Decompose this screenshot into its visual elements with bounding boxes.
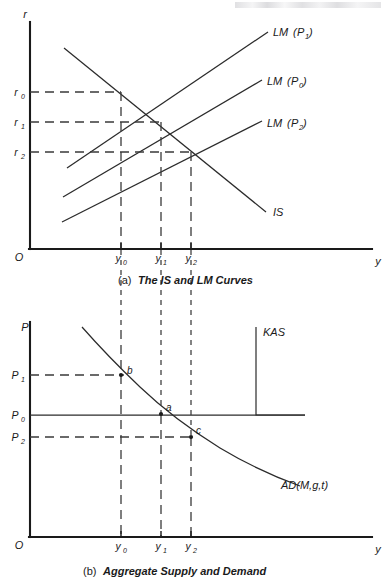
panel-a-xtick-y0-sub: 0 bbox=[123, 259, 127, 266]
curve-label-lm-p2: LM ( P 2 ) bbox=[267, 117, 307, 132]
panel-a-y-tick-labels: r 0 r 1 r 2 bbox=[14, 86, 25, 160]
panel-b-caption-text: Aggregate Supply and Demand bbox=[102, 565, 266, 577]
panel-b-ytick-p1: P bbox=[11, 369, 18, 381]
curve-label-lm-p2-arg: P bbox=[291, 117, 299, 129]
panel-a-ytick-r2-sub: 2 bbox=[20, 153, 25, 160]
panel-b-point-labels: b a c bbox=[127, 365, 201, 436]
panel-a-ytick-r1-sub: 1 bbox=[21, 123, 25, 130]
panel-b-xtick-y2: y bbox=[184, 540, 191, 552]
panel-b-origin-label: O bbox=[15, 539, 24, 551]
panel-b-ytick-p2-sub: 2 bbox=[20, 438, 25, 445]
curve-label-lm-p0-name: LM bbox=[267, 75, 283, 87]
panel-a-xtick-y2: y bbox=[184, 252, 191, 264]
curve-label-ad: AD(M,g,t) bbox=[280, 479, 328, 491]
panel-b-y-axis-label: P bbox=[21, 321, 29, 333]
panel-b-xtick-y1-sub: 1 bbox=[163, 547, 167, 554]
point-label-b: b bbox=[127, 365, 133, 376]
panel-b-caption: (b) Aggregate Supply and Demand bbox=[83, 565, 266, 577]
panel-a-caption-prefix: (a) bbox=[118, 274, 131, 286]
panel-b-x-tick-labels: y 0 y 1 y 2 bbox=[114, 540, 197, 554]
panel-a-x-axis-label: y bbox=[374, 255, 382, 267]
economics-figure: r y O r 0 r 1 r 2 y 0 y 1 y 2 bbox=[0, 0, 389, 585]
panel-b-ytick-p0: P bbox=[11, 409, 18, 421]
curve-label-lm-p2-name: LM bbox=[267, 117, 283, 129]
panel-a-curve-labels: LM ( P 1 ) LM ( P 0 ) LM ( bbox=[267, 26, 313, 218]
curve-label-is: IS bbox=[273, 206, 284, 218]
panel-a-origin-label: O bbox=[15, 251, 24, 263]
panel-a-xtick-y1: y bbox=[154, 252, 161, 264]
panel-a-ytick-r1: r bbox=[14, 116, 18, 128]
curve-label-lm-p1-name: LM bbox=[273, 26, 289, 38]
curve-label-lm-p0: LM ( P 0 ) bbox=[267, 75, 307, 90]
point-label-c: c bbox=[196, 425, 201, 436]
panel-b-xtick-y1: y bbox=[154, 540, 161, 552]
curve-label-lm-p0-arg: P bbox=[291, 75, 299, 87]
panel-a-xtick-y2-sub: 2 bbox=[192, 259, 197, 266]
curve-label-kas: KAS bbox=[263, 326, 286, 338]
panel-a-group: r y O r 0 r 1 r 2 y 0 y 1 y 2 bbox=[14, 8, 382, 330]
panel-a-xtick-y1-sub: 1 bbox=[163, 259, 167, 266]
figure-root: r y O r 0 r 1 r 2 y 0 y 1 y 2 bbox=[0, 0, 389, 585]
curve-lm-p2 bbox=[62, 121, 262, 222]
panel-b-x-axis-label: y bbox=[374, 543, 382, 555]
panel-b-ytick-p1-sub: 1 bbox=[21, 376, 25, 383]
panel-a-ytick-r0: r bbox=[14, 86, 18, 98]
panel-a-xtick-y0: y bbox=[114, 252, 121, 264]
panel-a-x-tick-labels: y 0 y 1 y 2 bbox=[114, 252, 197, 266]
point-marker-b bbox=[119, 373, 123, 377]
panel-a-caption: (a) The IS and LM Curves bbox=[118, 274, 253, 286]
curve-kas bbox=[256, 327, 305, 415]
point-marker-a bbox=[159, 412, 163, 416]
panel-a-caption-text: The IS and LM Curves bbox=[138, 274, 253, 286]
panel-b-group: b a c P y O P 1 P 0 P 2 y 0 bbox=[11, 321, 382, 577]
panel-b-y-tick-labels: P 1 P 0 P 2 bbox=[11, 369, 25, 445]
panel-a-ytick-r2: r bbox=[14, 146, 18, 158]
panel-b-xtick-y2-sub: 2 bbox=[192, 547, 197, 554]
panel-b-point-markers bbox=[119, 373, 193, 439]
panel-a-y-axis-label: r bbox=[23, 8, 28, 20]
panel-b-ytick-p0-sub: 0 bbox=[21, 416, 25, 423]
curve-is bbox=[64, 48, 266, 212]
curve-lm-p1 bbox=[67, 32, 268, 168]
point-label-a: a bbox=[166, 402, 172, 413]
panel-b-xtick-y0-sub: 0 bbox=[123, 547, 127, 554]
panel-b-vertical-guides bbox=[121, 330, 191, 537]
panel-b-caption-prefix: (b) bbox=[83, 565, 96, 577]
panel-a-vertical-guides bbox=[121, 92, 191, 249]
panel-a-ytick-r0-sub: 0 bbox=[21, 93, 25, 100]
panel-b-ytick-p2: P bbox=[11, 431, 18, 443]
panel-a-axes bbox=[29, 22, 372, 249]
curve-label-lm-p1: LM ( P 1 ) bbox=[273, 26, 313, 41]
curve-label-lm-p1-arg: P bbox=[297, 26, 305, 38]
curve-lm-p0 bbox=[63, 80, 262, 197]
point-marker-c bbox=[189, 435, 193, 439]
panel-b-xtick-y0: y bbox=[114, 540, 121, 552]
